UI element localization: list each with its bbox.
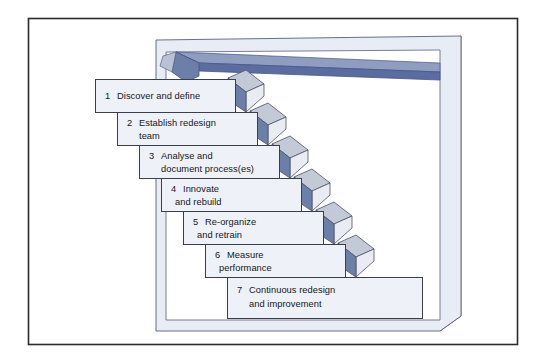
step-box-6[interactable]: 6 Measure performance <box>206 245 346 278</box>
figure-root: 1 Discover and define 2 Establish redesi… <box>0 0 546 364</box>
step-7-number: 7 <box>237 285 242 295</box>
step-3-line2: document process(es) <box>161 164 254 174</box>
step-7-line1: Continuous redesign <box>249 285 335 295</box>
step-box-5[interactable]: 5 Re-organize and retrain <box>184 212 324 245</box>
step-box-7[interactable]: 7 Continuous redesign and improvement <box>228 278 423 319</box>
step-3-line1: Analyse and <box>161 151 213 161</box>
step-2-line2: team <box>139 131 160 141</box>
process-staircase-diagram: 1 Discover and define 2 Establish redesi… <box>0 0 546 364</box>
step-4-line2: and rebuild <box>175 197 222 207</box>
step-5-number: 5 <box>193 217 198 227</box>
step-1-number: 1 <box>105 91 110 101</box>
step-box-2[interactable]: 2 Establish redesign team <box>118 113 258 146</box>
step-6-line2: performance <box>219 263 272 273</box>
step-7-rect <box>228 278 423 319</box>
step-box-1[interactable]: 1 Discover and define <box>96 80 236 113</box>
step-7-line2: and improvement <box>249 299 322 309</box>
step-2-number: 2 <box>127 118 132 128</box>
step-4-line1: Innovate <box>183 184 219 194</box>
step-box-3[interactable]: 3 Analyse and document process(es) <box>140 146 280 179</box>
step-4-number: 4 <box>171 184 176 194</box>
step-1-line1: Discover and define <box>117 91 200 101</box>
step-3-number: 3 <box>149 151 154 161</box>
step-5-line1: Re-organize <box>205 217 256 227</box>
step-6-line1: Measure <box>227 250 264 260</box>
step-6-number: 6 <box>215 250 220 260</box>
step-2-line1: Establish redesign <box>139 118 216 128</box>
step-box-4[interactable]: 4 Innovate and rebuild <box>162 179 302 212</box>
step-5-line2: and retrain <box>197 230 242 240</box>
